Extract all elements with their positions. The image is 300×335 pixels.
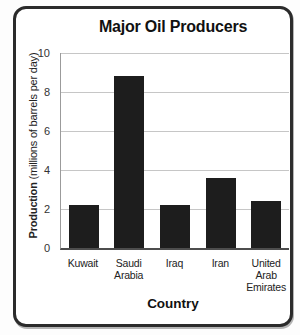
y-tick-label-10: 10 xyxy=(16,47,56,59)
x-label-iraq: Iraq xyxy=(152,257,198,293)
gridline-8 xyxy=(61,92,289,93)
bar-kuwait xyxy=(69,205,99,248)
bar-saudi-arabia xyxy=(114,76,144,248)
bar-iraq xyxy=(160,205,190,248)
x-label-iran: Iran xyxy=(197,257,243,293)
x-axis-labels: KuwaitSaudi ArabiaIraqIranUnited Arab Em… xyxy=(60,257,289,293)
gridline-10 xyxy=(61,53,289,54)
x-label-kuwait: Kuwait xyxy=(60,257,106,293)
y-tick-label-0: 0 xyxy=(16,242,56,254)
y-axis-ticks: 0246810 xyxy=(16,53,56,250)
x-axis-title: Country xyxy=(56,296,290,311)
x-label-united-arab-emirates: United Arab Emirates xyxy=(243,257,289,293)
x-label-saudi-arabia: Saudi Arabia xyxy=(106,257,152,293)
y-tick-label-2: 2 xyxy=(16,203,56,215)
bar-iran xyxy=(206,178,236,248)
page: Major Oil Producers Production (millions… xyxy=(0,0,300,335)
gridline-4 xyxy=(61,170,289,171)
y-tick-label-4: 4 xyxy=(16,164,56,176)
chart-card: Major Oil Producers Production (millions… xyxy=(13,6,293,327)
gridline-6 xyxy=(61,131,289,132)
bar-united-arab-emirates xyxy=(251,201,281,248)
plot-area xyxy=(60,53,289,250)
y-tick-label-6: 6 xyxy=(16,125,56,137)
chart-title: Major Oil Producers xyxy=(56,18,290,36)
y-tick-label-8: 8 xyxy=(16,86,56,98)
